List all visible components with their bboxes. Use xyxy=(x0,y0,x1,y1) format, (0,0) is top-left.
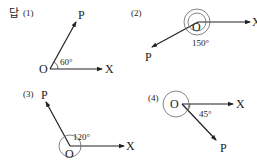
panel-1: 답 (1) O X P 60° xyxy=(9,7,114,76)
angle-label: 150° xyxy=(192,38,210,48)
p-label: P xyxy=(220,141,227,155)
panel-index: (4) xyxy=(148,93,159,103)
angle-label: 45° xyxy=(199,109,212,119)
terminal-side-ray xyxy=(46,102,70,146)
x-label: X xyxy=(236,97,245,111)
panel-index: (2) xyxy=(131,8,142,18)
vertex-label: O xyxy=(65,147,74,161)
panel-2: (2) O X P 150° xyxy=(131,8,257,64)
angle-label: 120° xyxy=(73,132,91,142)
panel-index: (3) xyxy=(23,89,34,99)
p-label: P xyxy=(41,88,48,102)
vertex-label: O xyxy=(192,20,201,34)
answer-label: 답 xyxy=(9,7,19,19)
vertex-label: O xyxy=(170,97,179,111)
panel-3: (3) O X P 120° xyxy=(23,88,135,161)
angle-arc xyxy=(54,62,58,69)
x-label: X xyxy=(105,62,114,76)
x-label: X xyxy=(252,15,257,29)
vertex-label: O xyxy=(39,62,48,76)
p-label: P xyxy=(145,50,152,64)
x-label: X xyxy=(126,139,135,153)
panel-4: (4) O X P 45° xyxy=(148,91,245,155)
p-label: P xyxy=(78,8,85,22)
angle-diagrams: 답 (1) O X P 60° (2) O X P 150° (3) O X P… xyxy=(0,0,257,161)
panel-index: (1) xyxy=(23,8,34,18)
angle-label: 60° xyxy=(60,57,73,67)
